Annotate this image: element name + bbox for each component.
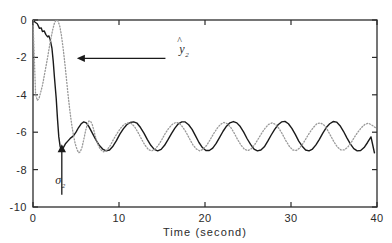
y-tick-label: -8 [16, 164, 27, 176]
y-tick-label: 0 [20, 14, 27, 26]
x-tick-labels: 010203040 [30, 212, 384, 224]
sigma2-subscript: 2 [62, 182, 66, 190]
y-tick-label: -4 [16, 89, 27, 101]
x-tick-label: 40 [370, 212, 383, 224]
data-series-group [33, 20, 375, 153]
annotations-group: y^2σ2 [55, 35, 189, 195]
x-tick-label: 20 [198, 212, 211, 224]
axes-frame [33, 20, 377, 207]
x-axis-title: Time (second) [163, 226, 247, 238]
y-tick-label: -2 [16, 51, 27, 63]
y2-hat-accent: ^ [177, 35, 182, 46]
y-tick-label: -10 [10, 201, 27, 213]
x-tick-label: 0 [30, 212, 37, 224]
axis-ticks [33, 20, 377, 207]
y-tick-label: -6 [16, 126, 27, 138]
x-tick-label: 30 [284, 212, 297, 224]
series-dotted-estimate [33, 20, 375, 153]
left-arrow-head [77, 55, 85, 62]
series-solid-response [33, 20, 374, 153]
chart-canvas: 0-2-4-6-8-10 010203040 y^2σ2 Time (secon… [0, 0, 392, 243]
y-tick-labels: 0-2-4-6-8-10 [10, 14, 27, 213]
y2-hat-subscript: 2 [185, 51, 189, 59]
figure-container: 0-2-4-6-8-10 010203040 y^2σ2 Time (secon… [0, 0, 392, 243]
x-tick-label: 10 [112, 212, 125, 224]
